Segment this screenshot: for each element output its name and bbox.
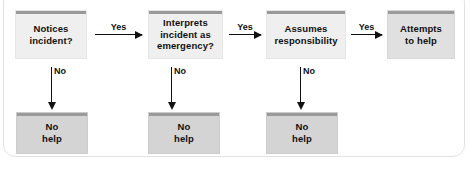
node-attempts-to-help: Attempts to help — [387, 10, 455, 59]
node-label: Interprets incident as emergency? — [154, 17, 217, 52]
node-label: Attempts to help — [397, 23, 445, 46]
node-label: No help — [39, 121, 65, 144]
edge-no-2: No — [171, 67, 172, 103]
edge-label: No — [174, 66, 186, 76]
node-label: No help — [171, 121, 197, 144]
edge-label: Yes — [359, 22, 375, 32]
node-assumes-responsibility: Assumes responsibility — [266, 10, 346, 59]
node-no-help-3: No help — [266, 112, 338, 154]
flowchart-figure: Notices incident? Interprets incident as… — [0, 0, 470, 170]
edge-no-1: No — [51, 67, 52, 103]
node-notices-incident: Notices incident? — [15, 10, 87, 59]
edge-label: No — [303, 66, 315, 76]
edge-label: Yes — [111, 22, 127, 32]
node-label: Assumes responsibility — [271, 23, 340, 46]
node-interprets-emergency: Interprets incident as emergency? — [148, 10, 223, 59]
edge-yes-1: Yes — [95, 34, 142, 35]
edge-yes-2: Yes — [229, 34, 261, 35]
node-no-help-2: No help — [148, 112, 220, 154]
node-no-help-1: No help — [16, 112, 88, 154]
edge-yes-3: Yes — [351, 34, 382, 35]
node-label: No help — [289, 121, 315, 144]
edge-label: No — [54, 66, 66, 76]
edge-label: Yes — [237, 22, 253, 32]
node-label: Notices incident? — [26, 23, 75, 46]
edge-no-3: No — [300, 67, 301, 103]
